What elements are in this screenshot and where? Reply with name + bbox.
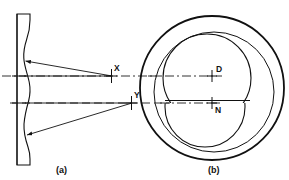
figure-container: X Y (a): [0, 0, 289, 180]
marker-n-label: N: [215, 105, 221, 115]
ray-upper-to-x: [26, 61, 113, 76]
inner-circle: [154, 32, 274, 152]
marker-x-label: X: [114, 63, 120, 73]
outer-rim-circle: [140, 16, 284, 160]
panel-b-group: D N (b): [140, 16, 284, 175]
optical-diagram-svg: X Y (a): [0, 0, 289, 180]
panel-a-group: X Y (a): [2, 14, 170, 175]
zone-circle-lower: [165, 67, 245, 147]
optic-body-outline: [17, 14, 30, 165]
panel-b-caption: (b): [208, 165, 220, 175]
marker-y-label: Y: [134, 90, 140, 100]
ray-lower-to-y: [27, 103, 132, 135]
zone-circle-upper: [163, 34, 251, 122]
marker-d-label: D: [216, 64, 222, 74]
panel-a-caption: (a): [56, 165, 67, 175]
